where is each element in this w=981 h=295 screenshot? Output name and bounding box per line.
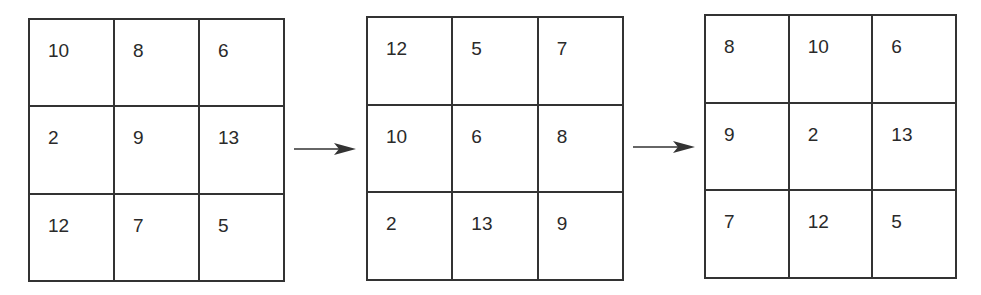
cell-value: 2 <box>48 127 59 149</box>
cell-value: 7 <box>724 211 735 233</box>
grid-cell: 5 <box>452 17 537 105</box>
cell-value: 9 <box>724 124 735 146</box>
grid-cell: 13 <box>452 192 537 280</box>
grid-cell: 13 <box>199 106 284 193</box>
cell-value: 8 <box>724 36 735 58</box>
grid-cell: 13 <box>872 103 956 191</box>
grid-cell: 6 <box>872 15 956 103</box>
cell-value: 13 <box>218 127 239 149</box>
cell-value: 8 <box>133 40 144 62</box>
grid-cell: 9 <box>114 106 199 193</box>
cell-value: 12 <box>386 38 407 60</box>
grid-cell: 2 <box>789 103 873 191</box>
cell-value: 6 <box>891 36 902 58</box>
cell-value: 7 <box>557 38 568 60</box>
cell-value: 10 <box>808 36 829 58</box>
grid-cell: 12 <box>29 194 114 281</box>
grid-cell: 2 <box>29 106 114 193</box>
cell-value: 10 <box>386 126 407 148</box>
cell-value: 9 <box>133 127 144 149</box>
grid-cell: 7 <box>114 194 199 281</box>
grid-cell: 5 <box>199 194 284 281</box>
grid-cell: 12 <box>789 190 873 278</box>
grid-cell: 10 <box>789 15 873 103</box>
cell-value: 12 <box>48 215 69 237</box>
grid-cell: 8 <box>705 15 789 103</box>
cell-value: 9 <box>557 213 568 235</box>
cell-value: 5 <box>891 211 902 233</box>
grid-cell: 10 <box>367 105 452 193</box>
grid-cell: 8 <box>538 105 623 193</box>
cell-value: 13 <box>891 124 912 146</box>
cell-value: 8 <box>557 126 568 148</box>
grid-cell: 10 <box>29 19 114 106</box>
grid-2: 12 5 7 10 6 8 2 13 9 <box>366 16 624 281</box>
grid-3: 8 10 6 9 2 13 7 12 5 <box>704 14 957 279</box>
right-arrow-icon <box>294 142 356 156</box>
right-arrow-icon <box>633 140 695 154</box>
grid-cell: 2 <box>367 192 452 280</box>
cell-value: 6 <box>218 40 229 62</box>
grid-cell: 9 <box>538 192 623 280</box>
cell-value: 5 <box>218 215 229 237</box>
grid-cell: 7 <box>705 190 789 278</box>
cell-value: 13 <box>471 213 492 235</box>
cell-value: 2 <box>386 213 397 235</box>
cell-value: 2 <box>808 124 819 146</box>
cell-value: 10 <box>48 40 69 62</box>
grid-cell: 9 <box>705 103 789 191</box>
cell-value: 7 <box>133 215 144 237</box>
grid-1: 10 8 6 2 9 13 12 7 5 <box>28 18 285 282</box>
cell-value: 12 <box>808 211 829 233</box>
grid-cell: 7 <box>538 17 623 105</box>
grid-cell: 12 <box>367 17 452 105</box>
cell-value: 5 <box>471 38 482 60</box>
cell-value: 6 <box>471 126 482 148</box>
grid-cell: 6 <box>452 105 537 193</box>
grid-cell: 6 <box>199 19 284 106</box>
grid-cell: 8 <box>114 19 199 106</box>
grid-cell: 5 <box>872 190 956 278</box>
